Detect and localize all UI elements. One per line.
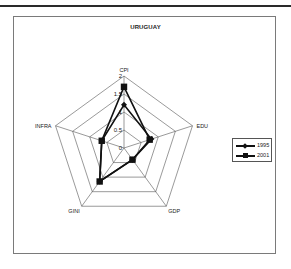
square-marker-icon [121, 84, 127, 90]
axis-label-infra: INFRA [35, 123, 52, 129]
radar-chart: 00.511.52CPIEDUGDPGINIINFRA [0, 0, 291, 269]
diamond-marker-icon [242, 143, 248, 149]
radial-tick-label: 0 [119, 145, 123, 151]
square-marker-icon [243, 153, 248, 158]
series-line-2001 [100, 87, 150, 182]
legend-item-1995: 1995 [235, 141, 271, 151]
radial-tick-label: 2 [119, 73, 123, 79]
radial-tick-label: 0.5 [114, 127, 123, 133]
square-marker-icon [129, 156, 135, 162]
axis-label-gdp: GDP [168, 208, 180, 214]
axis-label-gini: GINI [68, 208, 80, 214]
axis-label-cpi: CPI [119, 67, 129, 73]
axis-label-edu: EDU [196, 123, 208, 129]
axis-spoke [124, 126, 192, 148]
chart-legend: 1995 2001 [232, 138, 272, 162]
square-marker-icon [146, 136, 152, 142]
legend-label: 1995 [257, 142, 269, 148]
square-marker-icon [96, 178, 102, 184]
legend-item-2001: 2001 [235, 151, 271, 161]
square-marker-icon [99, 138, 105, 144]
legend-label: 2001 [257, 152, 269, 158]
